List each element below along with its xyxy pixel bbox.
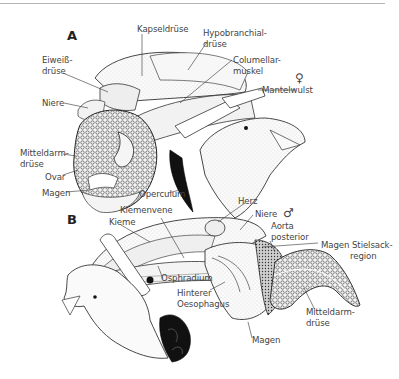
ovar-shape bbox=[88, 174, 118, 191]
panel-b-letter: B bbox=[67, 212, 77, 227]
label-osphradium: Osphradium bbox=[161, 273, 213, 283]
label-aorta-1: Aorta bbox=[271, 221, 294, 231]
label-magen-stielsack-2: region bbox=[350, 251, 377, 261]
label-herz: Herz bbox=[238, 196, 257, 206]
label-niere-b: Niere bbox=[255, 209, 277, 219]
male-symbol: ♂ bbox=[283, 206, 294, 220]
eiweissdruese-shape bbox=[100, 84, 140, 111]
panel-a-letter: A bbox=[67, 28, 77, 43]
label-hinterer-1: Hinterer bbox=[177, 288, 211, 298]
label-operculum: Operculum bbox=[139, 189, 185, 199]
female-symbol: ♀ bbox=[295, 71, 304, 85]
label-eiweiss-2: drüse bbox=[42, 66, 66, 76]
label-columellar-1: Columellar- bbox=[233, 55, 281, 65]
label-niere-a: Niere bbox=[42, 98, 64, 108]
operculum-shape bbox=[170, 150, 193, 212]
label-mitteldarm-a-2: drüse bbox=[20, 159, 44, 169]
mitteldarmdruese-b-shape bbox=[270, 250, 360, 309]
label-magen-b: Magen bbox=[252, 335, 280, 345]
label-aorta-2: posterior bbox=[271, 232, 309, 242]
panel-a-drawing bbox=[74, 52, 305, 218]
label-magen-stielsack-1: Magen Stielsack- bbox=[321, 240, 392, 250]
label-kieme: Kieme bbox=[109, 217, 135, 227]
label-ovar: Ovar bbox=[45, 172, 65, 182]
label-mitteldarm-a-1: Mitteldarm- bbox=[20, 148, 69, 158]
herz-shape bbox=[205, 220, 225, 236]
label-hypobranchial-1: Hypobranchial- bbox=[203, 28, 267, 38]
label-columellar-2: muskel bbox=[233, 66, 263, 76]
label-magen-a: Magen bbox=[42, 188, 70, 198]
label-mitteldarm-b-2: drüse bbox=[306, 318, 330, 328]
label-kapseldruese: Kapseldrüse bbox=[137, 24, 188, 34]
label-kiemenvene: Kiemenvene bbox=[120, 205, 173, 215]
label-hypobranchial-2: drüse bbox=[203, 39, 227, 49]
label-hinterer-2: Oesophagus bbox=[177, 299, 229, 309]
label-mitteldarm-b-1: Mitteldarm- bbox=[306, 307, 355, 317]
label-eiweiss-1: Eiweiß- bbox=[42, 55, 73, 65]
label-mantelwulst: Mantelwulst bbox=[262, 85, 313, 95]
